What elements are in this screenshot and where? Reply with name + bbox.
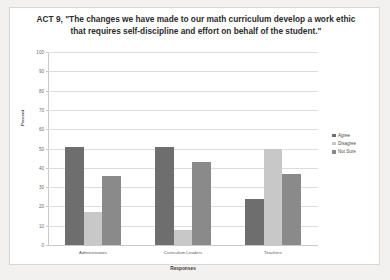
legend-item[interactable]: Agree bbox=[332, 133, 380, 138]
y-tick-mark-80 bbox=[46, 91, 48, 92]
y-tick-mark-20 bbox=[46, 206, 48, 207]
y-tick-label-100: 100 bbox=[36, 50, 44, 55]
y-tick-mark-50 bbox=[46, 149, 48, 150]
y-tick-label-70: 70 bbox=[39, 107, 44, 112]
bar[interactable] bbox=[264, 149, 283, 246]
legend-label: Not Sure bbox=[338, 149, 356, 154]
bar-group: Administrators bbox=[65, 52, 121, 245]
y-tick-label-90: 90 bbox=[39, 69, 44, 74]
bar[interactable] bbox=[84, 212, 103, 245]
legend-item[interactable]: Not Sure bbox=[332, 149, 380, 154]
y-tick-label-10: 10 bbox=[39, 223, 44, 228]
y-tick-mark-100 bbox=[46, 52, 48, 53]
bar[interactable] bbox=[192, 162, 211, 245]
y-tick-mark-40 bbox=[46, 168, 48, 169]
x-axis-title: Responses bbox=[48, 266, 318, 271]
gridline-0 bbox=[48, 245, 318, 246]
y-tick-mark-90 bbox=[46, 71, 48, 72]
plot-area: 1009080706050403020100 AdministratorsCur… bbox=[48, 52, 318, 245]
legend-label: Disagree bbox=[338, 141, 356, 146]
legend-swatch-icon bbox=[332, 150, 336, 154]
x-tick-label: Curriculum Leaders bbox=[155, 250, 211, 255]
y-tick-mark-70 bbox=[46, 110, 48, 111]
y-tick-label-50: 50 bbox=[39, 146, 44, 151]
y-tick-label-30: 30 bbox=[39, 185, 44, 190]
bar[interactable] bbox=[155, 147, 174, 245]
y-tick-label-40: 40 bbox=[39, 165, 44, 170]
chart-card: ACT 9, "The changes we have made to our … bbox=[9, 7, 380, 265]
y-tick-label-20: 20 bbox=[39, 204, 44, 209]
x-tick-label: Administrators bbox=[65, 250, 121, 255]
x-tick-label: Teachers bbox=[245, 250, 301, 255]
bar[interactable] bbox=[102, 176, 121, 245]
y-tick-label-60: 60 bbox=[39, 127, 44, 132]
bar[interactable] bbox=[282, 174, 301, 245]
legend-swatch-icon bbox=[332, 142, 336, 146]
legend-item[interactable]: Disagree bbox=[332, 141, 380, 146]
y-axis-title: Percent bbox=[20, 110, 25, 126]
bar[interactable] bbox=[65, 147, 84, 245]
y-tick-mark-10 bbox=[46, 226, 48, 227]
y-tick-label-80: 80 bbox=[39, 88, 44, 93]
bar-group: Curriculum Leaders bbox=[155, 52, 211, 245]
bar[interactable] bbox=[245, 199, 264, 245]
y-tick-mark-0 bbox=[46, 245, 48, 246]
y-tick-label-0: 0 bbox=[41, 243, 44, 248]
bar[interactable] bbox=[174, 230, 193, 245]
chart-legend: AgreeDisagreeNot Sure bbox=[332, 133, 380, 158]
legend-label: Agree bbox=[338, 133, 350, 138]
y-tick-mark-60 bbox=[46, 129, 48, 130]
chart-title: ACT 9, "The changes we have made to our … bbox=[36, 14, 356, 37]
y-tick-mark-30 bbox=[46, 187, 48, 188]
legend-swatch-icon bbox=[332, 134, 336, 138]
bar-group: Teachers bbox=[245, 52, 301, 245]
